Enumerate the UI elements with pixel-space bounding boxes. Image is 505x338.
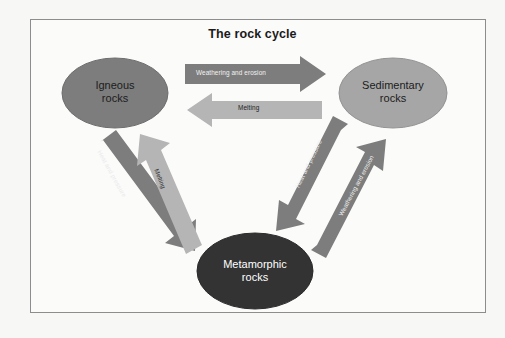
node-sedimentary-rocks <box>339 58 447 128</box>
rock-cycle-diagram: The rock cycle Igneous rocks Sedimentary… <box>0 0 505 338</box>
arrow-sedimentary-to-igneous <box>187 93 322 127</box>
page-title: The rock cycle <box>0 27 505 41</box>
arrow-igneous-to-sedimentary <box>185 56 326 92</box>
diagram-canvas <box>0 0 505 338</box>
node-igneous-rocks <box>62 58 168 128</box>
node-metamorphic-rocks <box>197 233 313 309</box>
